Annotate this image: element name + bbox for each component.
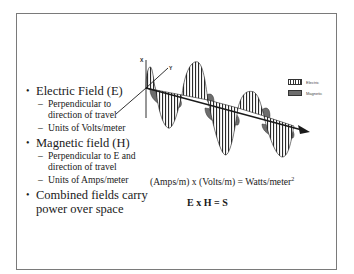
legend-label: Magnetic (306, 91, 322, 96)
sub-bullet: –Perpendicular to E anddirection of trav… (26, 150, 166, 172)
legend-item-magnetic: Magnetic (288, 89, 322, 97)
units-formula: (Amps/m) x (Volts/m) = Watts/meter2 (150, 176, 294, 187)
y-axis-label: Y (169, 65, 173, 71)
bullet-magnetic-field: Magnetic field (H) (26, 136, 166, 150)
bullet-combined-fields: Combined fields carrypower over space (26, 188, 166, 216)
sub-bullet: –Units of Amps/meter (26, 174, 166, 185)
electric-wave (146, 62, 294, 157)
sub-bullet: –Units of Volts/meter (26, 122, 166, 133)
bullet-electric-field: Electric Field (E) (26, 84, 166, 98)
magnetic-swatch-icon (288, 90, 302, 96)
sub-bullet: –Perpendicular todirection of travel (26, 98, 166, 120)
x-axis-label: X (140, 57, 144, 63)
arrowhead-icon (298, 125, 310, 134)
poynting-formula: E x H = S (187, 197, 228, 208)
legend-label: Electric (306, 80, 319, 85)
bullet-list: Electric Field (E) –Perpendicular todire… (26, 84, 166, 216)
legend-item-electric: Electric (288, 78, 322, 86)
legend: Electric Magnetic (288, 78, 322, 100)
electric-swatch-icon (288, 79, 302, 85)
